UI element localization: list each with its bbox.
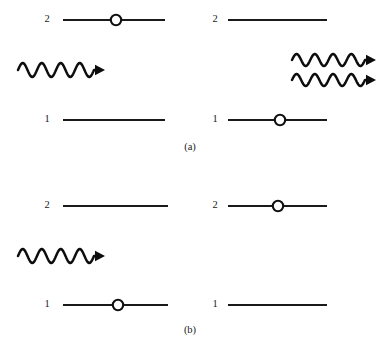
photon-wave-arrow bbox=[18, 63, 105, 77]
photon-arrowhead-icon bbox=[95, 251, 105, 261]
energy-level-1: 1 bbox=[212, 113, 327, 125]
energy-level-label: 2 bbox=[212, 199, 217, 210]
photon-arrowhead-icon bbox=[95, 65, 105, 75]
photon-wave-arrow bbox=[292, 54, 376, 66]
photon-wave-icon bbox=[292, 54, 368, 66]
energy-level-label: 1 bbox=[44, 298, 49, 309]
photon-wave-icon bbox=[292, 74, 368, 86]
electron-marker bbox=[273, 201, 283, 211]
panel-a-after: 21 bbox=[212, 13, 376, 125]
electron-marker bbox=[111, 15, 121, 25]
panel-caption: (a) bbox=[184, 141, 196, 153]
photon-wave-arrow bbox=[292, 74, 376, 86]
energy-level-1: 1 bbox=[44, 298, 168, 310]
energy-level-label: 2 bbox=[44, 199, 49, 210]
panel-a-before: 21 bbox=[18, 13, 165, 124]
panel-b: 2121(b) bbox=[18, 199, 327, 336]
panel-a: 2121(a) bbox=[18, 13, 376, 153]
energy-level-label: 2 bbox=[212, 13, 217, 24]
photon-wave-icon bbox=[18, 249, 97, 263]
panel-b-before: 21 bbox=[18, 199, 168, 310]
energy-level-figure: 2121(a)2121(b) bbox=[0, 0, 381, 352]
energy-level-1: 1 bbox=[212, 298, 327, 309]
photon-arrowhead-icon bbox=[366, 75, 376, 85]
energy-level-2: 2 bbox=[212, 13, 327, 24]
electron-marker bbox=[275, 115, 285, 125]
energy-level-diagram: 2121(a)2121(b) bbox=[0, 0, 381, 352]
energy-level-label: 2 bbox=[44, 13, 49, 24]
energy-level-1: 1 bbox=[44, 113, 165, 124]
panel-caption: (b) bbox=[184, 324, 197, 336]
energy-level-label: 1 bbox=[44, 113, 49, 124]
photon-arrowhead-icon bbox=[366, 55, 376, 65]
energy-level-2: 2 bbox=[44, 199, 168, 210]
panel-b-after: 21 bbox=[212, 199, 327, 309]
energy-level-2: 2 bbox=[212, 199, 327, 211]
energy-level-label: 1 bbox=[212, 298, 217, 309]
photon-wave-arrow bbox=[18, 249, 105, 263]
electron-marker bbox=[113, 300, 123, 310]
photon-wave-icon bbox=[18, 63, 97, 77]
energy-level-label: 1 bbox=[212, 113, 217, 124]
energy-level-2: 2 bbox=[44, 13, 165, 25]
